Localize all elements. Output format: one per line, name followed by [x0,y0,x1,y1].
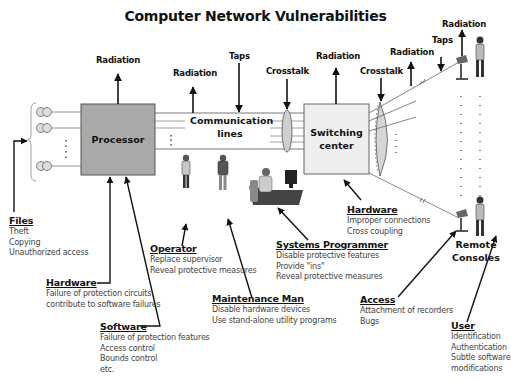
access-category: Access Attachment of recorders Bugs [360,293,453,327]
remote-console-top-icon [456,37,484,81]
disk-icon [37,162,52,171]
operator-category: Operator Replace supervisor Reveal prote… [150,242,256,276]
access-item: Bugs [360,317,453,328]
access-heading: Access [360,293,453,306]
radiation-remote-line-label: Radiation [390,47,434,57]
software-item: Bounds control [100,354,210,365]
maintenance-man-category: Maintenance Man Disable hardware devices… [212,292,337,326]
access-item: Attachment of recorders [360,306,453,317]
switching-center-label-line1: Switching [304,126,369,139]
user-category: User Identification Authentication Subtl… [451,319,510,374]
crosstalk-lines-label: Crosstalk [266,66,309,76]
user-item: Subtle software [451,353,510,364]
file-storage-group [28,103,81,181]
radiation-processor-label: Radiation [96,55,140,65]
user-heading: User [451,319,510,332]
systems-programmer-item: Disable protective features [276,251,388,262]
operator-heading: Operator [150,242,256,255]
systems-programmer-heading: Systems Programmer [276,238,388,251]
user-item: Identification [451,332,510,343]
remote-consoles-label-line2: Consoles [446,251,506,264]
operator-item: Replace supervisor [150,255,256,266]
disk-icon [37,108,52,117]
operator-figure-icon [182,155,190,188]
switching-center-label-line2: center [304,139,369,152]
user-item: modifications [451,364,510,375]
maintenance-man-heading: Maintenance Man [212,292,337,305]
disk-icon [37,124,52,133]
maintenance-man-figure-icon [218,155,228,190]
software-category: Software Failure of protection features … [100,320,210,375]
switching-center-label: Switching center [304,126,369,152]
hardware-switching-item: Improper connections [347,216,430,227]
systems-programmer-item: Reveal protective measures [276,272,388,283]
files-item: Unauthorized access [9,248,88,259]
taps-remote-label: Taps [432,35,453,45]
systems-programmer-category: Systems Programmer Disable protective fe… [276,238,388,283]
remote-consoles-label: Remote Consoles [446,238,506,264]
software-item: Failure of protection features [100,333,210,344]
crosstalk-coupler [282,110,292,152]
hardware-processor-item: Failure of protection circuits [46,289,160,300]
files-heading: Files [9,214,88,227]
files-item: Copying [9,238,88,249]
remote-console-bottom-icon [456,197,484,237]
operator-item: Reveal protective measures [150,266,256,277]
hardware-switching-heading: Hardware [347,203,430,216]
crosstalk-remote-label: Crosstalk [360,66,403,76]
files-category: Files Theft Copying Unauthorized access [9,214,88,259]
hardware-processor-item: contribute to software failures [46,300,160,311]
hardware-processor-heading: Hardware [46,276,160,289]
files-item: Theft [9,227,88,238]
software-item: etc. [100,365,210,376]
communication-lines-label-line2: lines [190,127,270,140]
communication-lines-label-line1: Communication [190,114,270,127]
systems-programmer-figure-icon [249,168,303,205]
software-item: Access control [100,344,210,355]
user-item: Authentication [451,343,510,354]
hardware-switching-category: Hardware Improper connections Cross coup… [347,203,430,237]
maintenance-man-item: Use stand-alone utility programs [212,316,337,327]
radiation-console-label: Radiation [442,19,486,29]
radiation-lines-label: Radiation [173,68,217,78]
hardware-switching-item: Cross coupling [347,227,430,238]
communication-lines-label: Communication lines [190,114,270,140]
hardware-processor-category: Hardware Failure of protection circuits … [46,276,160,310]
processor-label: Processor [81,133,155,146]
systems-programmer-item: Provide "ins" [276,262,388,273]
software-heading: Software [100,320,210,333]
diagram-title: Computer Network Vulnerabilities [0,8,511,24]
remote-consoles-label-line1: Remote [446,238,506,251]
taps-lines-label: Taps [229,51,250,61]
remote-lines [369,62,480,218]
radiation-switching-label: Radiation [316,51,360,61]
maintenance-man-item: Disable hardware devices [212,305,337,316]
